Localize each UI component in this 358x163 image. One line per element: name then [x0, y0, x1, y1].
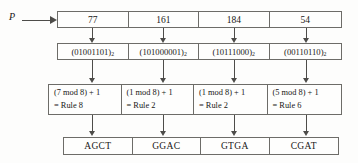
connector-arrow-3c: [231, 131, 237, 136]
dna-encoding-flow-diagram: P 77 161 184 54 (01001101)2 (101000001)2…: [0, 0, 358, 163]
connector-line-2b: [163, 60, 164, 79]
connector-line-2a: [92, 60, 93, 79]
connector-line-2c: [234, 60, 235, 79]
rule-cell-1: (7 mod 8) + 1 = Rule 8: [49, 85, 122, 114]
connector-line-2d: [306, 60, 307, 79]
connector-arrow-2b: [160, 78, 166, 83]
binary-cell-4-value: (00110110): [284, 47, 323, 57]
binary-cell-4-base: 2: [324, 51, 327, 57]
connector-line-3d: [306, 115, 307, 132]
rule-selection-row: (7 mod 8) + 1 = Rule 8 (1 mod 8) + 1 = R…: [48, 84, 342, 115]
binary-cell-3-value: (10111000): [213, 47, 252, 57]
key-value-cell-1: 77: [58, 12, 129, 27]
binary-representation-row: (01001101)2 (101000001)2 (10111000)2 (00…: [57, 43, 342, 60]
rule-cell-2-expression: (1 mod 8) + 1: [127, 87, 173, 99]
rule-cell-2: (1 mod 8) + 1 = Rule 2: [122, 85, 195, 114]
rule-cell-4-expression: (5 mod 8) + 1: [273, 87, 319, 99]
dna-cell-1: AGCT: [64, 138, 133, 154]
rule-cell-2-result: = Rule 2: [127, 100, 156, 112]
connector-arrow-2c: [231, 78, 237, 83]
connector-arrow-3d: [303, 131, 309, 136]
connector-line-3c: [234, 115, 235, 132]
dna-cell-4: CGAT: [270, 138, 339, 154]
rule-cell-4: (5 mod 8) + 1 = Rule 6: [268, 85, 341, 114]
input-label-p: P: [9, 11, 15, 22]
binary-cell-3: (10111000)2: [199, 44, 270, 59]
rule-cell-1-expression: (7 mod 8) + 1: [54, 87, 100, 99]
binary-cell-4: (00110110)2: [270, 44, 341, 59]
binary-cell-3-base: 2: [252, 51, 255, 57]
dna-sequence-row: AGCT GGAC GTGA CGAT: [63, 137, 339, 155]
dna-cell-2: GGAC: [133, 138, 202, 154]
rule-cell-3-expression: (1 mod 8) + 1: [199, 87, 245, 99]
binary-cell-2-value: (101000001): [140, 47, 184, 57]
connector-arrow-2a: [89, 78, 95, 83]
rule-cell-3-result: = Rule 2: [199, 100, 228, 112]
binary-cell-1-base: 2: [111, 51, 114, 57]
connector-line-3a: [92, 115, 93, 132]
binary-cell-1-value: (01001101): [71, 47, 111, 57]
key-value-cell-4: 54: [270, 12, 341, 27]
rule-cell-4-result: = Rule 6: [273, 100, 302, 112]
input-arrow-head-icon: [50, 16, 57, 24]
dna-cell-3: GTGA: [201, 138, 270, 154]
connector-line-3b: [163, 115, 164, 132]
binary-cell-1: (01001101)2: [58, 44, 129, 59]
connector-arrow-3a: [89, 131, 95, 136]
key-value-cell-3: 184: [199, 12, 270, 27]
key-values-row: 77 161 184 54: [57, 11, 342, 28]
connector-arrow-3b: [160, 131, 166, 136]
key-value-cell-2: 161: [129, 12, 200, 27]
rule-cell-1-result: = Rule 8: [54, 100, 83, 112]
connector-arrow-2d: [303, 78, 309, 83]
rule-cell-3: (1 mod 8) + 1 = Rule 2: [194, 85, 268, 114]
binary-cell-2-base: 2: [184, 51, 187, 57]
binary-cell-2: (101000001)2: [129, 44, 200, 59]
